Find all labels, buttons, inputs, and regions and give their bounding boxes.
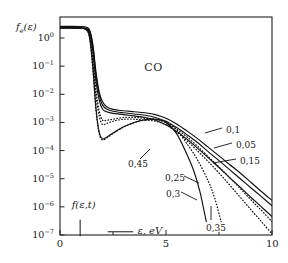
leader-line bbox=[140, 149, 150, 159]
curve-label-0-45: 0,45 bbox=[128, 160, 148, 169]
curve-0-35 bbox=[60, 28, 221, 222]
x-tick-label: 5 bbox=[160, 239, 172, 249]
curve-label-0-3: 0,3 bbox=[166, 190, 180, 199]
y-tick-label: 100 bbox=[8, 32, 54, 43]
y-tick-label: 10−3 bbox=[8, 116, 54, 127]
curve-label-0-15: 0,15 bbox=[240, 157, 260, 166]
y-tick-label: 10−2 bbox=[8, 88, 54, 99]
curve-label-0-05: 0,05 bbox=[236, 141, 256, 150]
y-tick-label: 10−7 bbox=[8, 229, 54, 240]
curve-label-0-25: 0,25 bbox=[165, 174, 185, 183]
curve-0-3 bbox=[60, 28, 206, 222]
leader-line bbox=[214, 143, 232, 148]
x-axis-label: ε, eV bbox=[137, 226, 162, 236]
figure-electron-distribution: fe(ε) CO f(ε,t) ε, eV 10010−110−210−310−… bbox=[0, 0, 288, 263]
leader-line bbox=[205, 128, 222, 133]
y-tick-label: 10−4 bbox=[8, 145, 54, 156]
curve-label-0-1: 0,1 bbox=[226, 126, 240, 135]
x-tick-label: 10 bbox=[266, 239, 278, 249]
y-tick-label: 10−1 bbox=[8, 60, 54, 71]
leader-line bbox=[181, 192, 197, 200]
curve-label-0-35: 0,35 bbox=[206, 224, 226, 233]
species-label: CO bbox=[144, 62, 162, 73]
distribution-annotation: f(ε,t) bbox=[72, 200, 96, 210]
y-tick-label: 10−6 bbox=[8, 201, 54, 212]
x-tick-label: 0 bbox=[54, 239, 66, 249]
y-axis-label-arg: (ε) bbox=[24, 21, 37, 32]
y-tick-label: 10−5 bbox=[8, 173, 54, 184]
